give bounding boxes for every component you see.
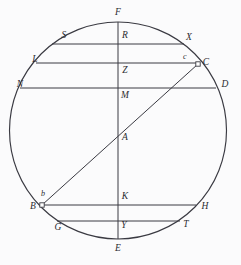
point-label-c: c xyxy=(183,53,187,61)
point-label-B: B xyxy=(30,202,36,212)
point-label-K: K xyxy=(122,192,129,202)
point-label-Z: Z xyxy=(122,66,127,76)
point-label-H: H xyxy=(201,202,208,212)
point-label-F: F xyxy=(115,8,121,18)
point-label-T: T xyxy=(183,220,188,230)
point-label-b: b xyxy=(41,190,45,198)
point-label-S: S xyxy=(62,31,67,41)
point-label-N: N xyxy=(17,80,24,90)
point-label-G: G xyxy=(54,223,61,233)
point-label-E: E xyxy=(115,244,121,254)
marker-C-marker xyxy=(196,62,200,66)
marker-B-marker xyxy=(40,203,44,207)
point-label-Y: Y xyxy=(121,221,126,231)
diagonal-line-bc xyxy=(42,64,198,205)
point-label-M: M xyxy=(121,91,129,101)
point-label-D: D xyxy=(221,80,228,90)
point-label-X: X xyxy=(186,33,192,43)
point-label-A: A xyxy=(122,133,128,143)
geometry-figure: FRSXcCLZNDMAbBKHGYTE xyxy=(0,0,241,265)
point-label-L: L xyxy=(32,55,37,65)
point-label-R: R xyxy=(122,31,128,41)
point-label-C: C xyxy=(203,58,210,68)
